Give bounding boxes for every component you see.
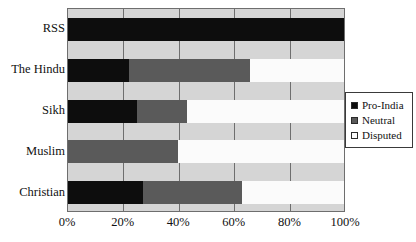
legend-label: Pro-India <box>362 99 404 111</box>
x-tick-label: 20% <box>99 215 147 230</box>
legend-swatch-icon <box>351 117 358 124</box>
legend: Pro-IndiaNeutralDisputed <box>345 92 413 148</box>
bar-row <box>68 181 344 204</box>
bar-segment-neutral <box>68 140 178 163</box>
bar-segment-disputed <box>250 59 344 82</box>
legend-entry: Neutral <box>351 113 408 127</box>
legend-label: Disputed <box>362 129 402 141</box>
legend-label: Neutral <box>362 114 395 126</box>
category-label-the-hindu: The Hindu <box>0 62 65 76</box>
bar-row <box>68 18 344 41</box>
category-label-rss: RSS <box>0 21 65 35</box>
category-label-muslim: Muslim <box>0 144 65 158</box>
legend-swatch-icon <box>351 132 358 139</box>
x-tick-label: 60% <box>210 215 258 230</box>
category-label-christian: Christian <box>0 185 65 199</box>
legend-swatch-icon <box>351 102 358 109</box>
x-tick-label: 100% <box>321 215 369 230</box>
bar-segment-proindia <box>68 18 344 41</box>
bar-segment-neutral <box>129 59 250 82</box>
bar-segment-neutral <box>143 181 242 204</box>
bar-segment-proindia <box>68 100 137 123</box>
x-tick-label: 80% <box>265 215 313 230</box>
bar-segment-disputed <box>178 140 344 163</box>
bar-row <box>68 140 344 163</box>
stacked-bar-chart: RSSThe HinduSikhMuslimChristian 0%20%40%… <box>0 0 416 242</box>
bar-segment-proindia <box>68 181 143 204</box>
category-label-sikh: Sikh <box>0 103 65 117</box>
legend-entry: Pro-India <box>351 98 408 112</box>
bar-segment-disputed <box>242 181 344 204</box>
bar-segment-neutral <box>137 100 187 123</box>
x-tick-label: 0% <box>43 215 91 230</box>
plot-area <box>67 8 345 212</box>
x-tick-label: 40% <box>154 215 202 230</box>
bar-row <box>68 59 344 82</box>
bar-segment-proindia <box>68 59 129 82</box>
bar-segment-disputed <box>187 100 344 123</box>
legend-entry: Disputed <box>351 128 408 142</box>
bar-row <box>68 100 344 123</box>
